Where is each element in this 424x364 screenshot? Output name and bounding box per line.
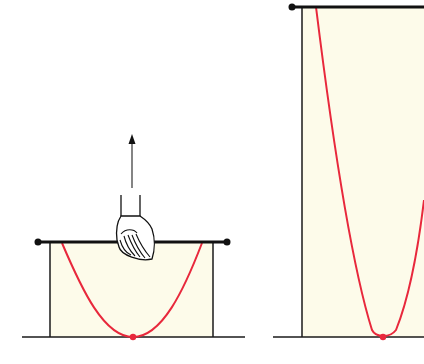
right-curve-bottom-dot: [380, 334, 386, 340]
left-crossbar-end-dot-right: [224, 239, 231, 246]
left-crossbar-end-dot-left: [35, 239, 42, 246]
left-panel: [22, 134, 245, 340]
arrow-up-icon: [129, 134, 136, 188]
right-panel: [273, 4, 424, 341]
right-crossbar-end-dot-left: [289, 4, 296, 11]
diagram-stage: [0, 0, 424, 364]
soap-film-diagram: [0, 0, 424, 364]
left-curve-bottom-dot: [130, 334, 136, 340]
hand-icon: [117, 195, 155, 260]
right-film-area: [302, 7, 424, 337]
